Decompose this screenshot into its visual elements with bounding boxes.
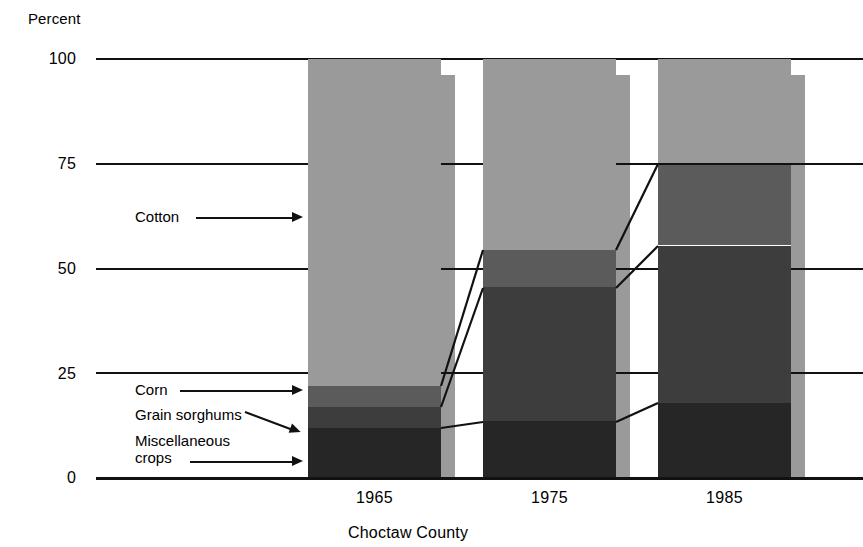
x-tick-label-1965: 1965 — [308, 489, 441, 507]
x-axis-baseline — [96, 477, 863, 480]
chart-caption: Choctaw County — [348, 524, 648, 542]
x-tick-label-1975: 1975 — [483, 489, 616, 507]
segment-tie-lines — [0, 0, 863, 547]
stacked-bar-chart: Percent 100 75 50 25 0 — [0, 0, 863, 547]
callout-label-grain-sorghums: Grain sorghums — [135, 406, 242, 423]
callout-arrow-cotton — [292, 212, 303, 222]
callout-label-corn: Corn — [135, 381, 168, 398]
callout-arrow-misc-crops — [292, 456, 303, 466]
callout-label-misc-crops-line1: Miscellaneous — [135, 432, 230, 449]
callout-arrow-corn — [292, 385, 303, 395]
x-tick-label-1985: 1985 — [658, 489, 791, 507]
callout-label-cotton: Cotton — [135, 208, 179, 225]
callout-leader-misc-crops — [190, 461, 292, 463]
callout-label-misc-crops-line2: crops — [135, 449, 172, 466]
callout-leader-cotton — [196, 217, 292, 219]
callout-leader-corn — [180, 390, 292, 392]
